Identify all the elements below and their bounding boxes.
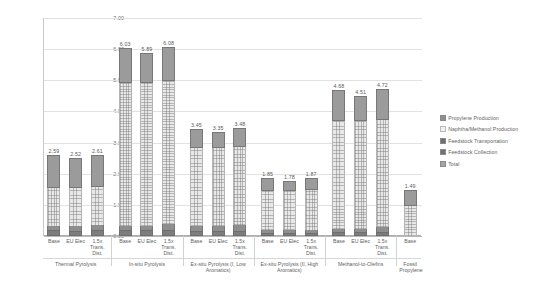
segment-propylene-production (140, 53, 153, 83)
bar: 2.61 (91, 155, 104, 236)
segment-propylene-production (190, 129, 203, 148)
x-axis-group-label: In-situ Pyrolysis (114, 261, 179, 267)
bar-total-label: 2.61 (92, 148, 103, 154)
legend-item-label: Feedstock Collection (448, 149, 497, 155)
segment-propylene-production (47, 155, 60, 188)
bar-total-label: 3.45 (191, 122, 202, 128)
bar: 3.45 (190, 129, 203, 236)
x-axis-group-separator (325, 236, 326, 266)
bar-total-label: 3.48 (235, 121, 246, 127)
segment-propylene-production (233, 128, 246, 147)
x-axis-tick-label: Base (114, 238, 136, 244)
segment-naphtha-methanol-production (162, 81, 175, 224)
x-axis-tick-label: Base (328, 238, 350, 244)
bar: 6.03 (119, 48, 132, 236)
x-axis-tick-label: 1.5x Trans. Dist. (87, 238, 109, 257)
bar: 3.35 (212, 132, 225, 236)
legend: Propylene ProductionNaphtha/Methanol Pro… (440, 112, 545, 170)
bar-total-label: 4.72 (377, 82, 388, 88)
legend-item-total[interactable]: Total (440, 158, 545, 170)
legend-swatch-icon (440, 149, 446, 155)
bar: 5.89 (140, 53, 153, 236)
x-axis-tick-label: EU Elec (65, 238, 87, 244)
segment-propylene-production (119, 48, 132, 82)
bar-total-label: 1.85 (262, 171, 273, 177)
bar: 1.78 (283, 181, 296, 236)
segment-naphtha-methanol-production (305, 190, 318, 230)
legend-swatch-icon (440, 138, 446, 144)
bar-total-label: 5.89 (142, 46, 153, 52)
x-axis-group-label: Fossil Propylene (399, 261, 421, 274)
x-axis-group-rule (43, 258, 421, 259)
bar: 6.08 (162, 47, 175, 236)
bar: 4.72 (376, 89, 389, 236)
legend-swatch-icon (440, 115, 446, 121)
bar: 4.51 (354, 96, 367, 236)
x-axis-tick-label: 1.5x Trans. Dist. (300, 238, 322, 257)
x-axis-group-separator (111, 236, 112, 266)
segment-naphtha-methanol-production (233, 147, 246, 225)
bar-total-label: 2.59 (49, 148, 60, 154)
legend-item-label: Feedstock Transportation (448, 138, 508, 144)
segment-propylene-production (404, 190, 417, 206)
bar: 3.48 (233, 128, 246, 236)
bar-total-label: 6.08 (163, 40, 174, 46)
segment-naphtha-methanol-production (91, 187, 104, 225)
segment-naphtha-methanol-production (140, 83, 153, 226)
segment-naphtha-methanol-production (283, 191, 296, 231)
x-axis-tick-label: Base (186, 238, 208, 244)
segment-naphtha-methanol-production (404, 206, 417, 236)
segment-naphtha-methanol-production (47, 188, 60, 226)
x-axis-tick-label: Base (399, 238, 421, 244)
x-axis-group-label: Ex-situ Pyrolysis (II, High Aromatics) (257, 261, 322, 274)
segment-naphtha-methanol-production (190, 148, 203, 226)
bar-total-label: 4.68 (334, 83, 345, 89)
x-axis: BaseEU Elec1.5x Trans. Dist.BaseEU Elec1… (43, 236, 421, 284)
bar: 4.68 (332, 90, 345, 236)
segment-naphtha-methanol-production (376, 120, 389, 227)
x-axis-group-label: Methanol-to-Olefins (328, 261, 393, 267)
legend-item-label: Total (448, 161, 459, 167)
segment-naphtha-methanol-production (212, 148, 225, 226)
bar: 2.52 (69, 158, 82, 236)
legend-item-propylene-production[interactable]: Propylene Production (440, 112, 545, 124)
segment-propylene-production (305, 178, 318, 190)
bar: 1.85 (261, 178, 274, 236)
segment-propylene-production (261, 178, 274, 190)
bar-total-label: 4.51 (355, 89, 366, 95)
segment-propylene-production (162, 47, 175, 81)
x-axis-tick-label: EU Elec (279, 238, 301, 244)
x-axis-group-separator (396, 236, 397, 266)
ghg-stacked-bar-chart: GHG (kg CO2 -eq/kg propylene) 7.006.005.… (0, 0, 548, 284)
x-axis-tick-label: 1.5x Trans. Dist. (229, 238, 251, 257)
bar: 1.87 (305, 178, 318, 236)
legend-item-label: Naphtha/Methanol Production (448, 126, 518, 132)
bar-total-label: 3.35 (213, 125, 224, 131)
legend-item-feedstock-transportation[interactable]: Feedstock Transportation (440, 135, 545, 147)
segment-propylene-production (69, 158, 82, 189)
legend-item-label: Propylene Production (448, 115, 499, 121)
legend-swatch-icon (440, 161, 446, 167)
legend-item-feedstock-collection[interactable]: Feedstock Collection (440, 147, 545, 159)
segment-naphtha-methanol-production (261, 191, 274, 231)
segment-propylene-production (376, 89, 389, 120)
x-axis-tick-label: Base (43, 238, 65, 244)
bar-total-label: 2.52 (70, 151, 81, 157)
x-axis-tick-label: EU Elec (207, 238, 229, 244)
x-axis-tick-label: EU Elec (350, 238, 372, 244)
segment-propylene-production (91, 155, 104, 188)
segment-naphtha-methanol-production (119, 83, 132, 226)
x-axis-tick-label: 1.5x Trans. Dist. (372, 238, 394, 257)
segment-propylene-production (332, 90, 345, 121)
x-axis-group-label: Ex-situ Pyrolysis (I, Low Aromatics) (186, 261, 251, 274)
x-axis-tick-label: 1.5x Trans. Dist. (158, 238, 180, 257)
segment-naphtha-methanol-production (332, 121, 345, 228)
legend-item-naphtha-methanol-production[interactable]: Naphtha/Methanol Production (440, 124, 545, 136)
legend-swatch-icon (440, 126, 446, 132)
x-axis-group-label: Thermal Pyrolysis (43, 261, 108, 267)
bar: 2.59 (47, 155, 60, 236)
bar-total-label: 1.78 (284, 174, 295, 180)
x-axis-tick-label: Base (257, 238, 279, 244)
segment-propylene-production (283, 181, 296, 191)
segment-naphtha-methanol-production (69, 188, 82, 226)
